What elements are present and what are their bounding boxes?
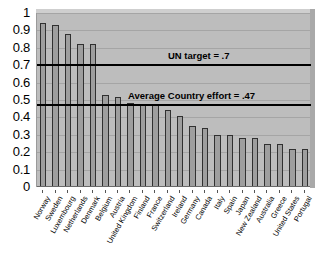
bar-body (227, 135, 233, 187)
x-axis-tick (229, 190, 230, 193)
bar-body (302, 149, 308, 187)
y-axis-tick-label: 0.4 (13, 110, 30, 123)
y-axis-tick-label: 0.5 (13, 93, 30, 106)
bar (264, 144, 270, 188)
x-axis-tick (304, 190, 305, 193)
x-axis-tick (254, 190, 255, 193)
x-axis-tick (192, 190, 193, 193)
bar-body (152, 105, 158, 187)
plot-area-side-face (310, 9, 315, 188)
x-axis-tick (179, 190, 180, 193)
x-axis-tick (55, 190, 56, 193)
bar (127, 103, 133, 187)
y-axis-tick-label: 0.3 (13, 128, 30, 141)
y-axis-tick-label: 0.9 (13, 23, 30, 36)
bar-body (264, 144, 270, 188)
bar (227, 135, 233, 187)
bar-body (252, 138, 258, 187)
bar (202, 128, 208, 187)
x-axis-tick (291, 190, 292, 193)
x-axis-tick (217, 190, 218, 193)
reference-line-label: Average Country effort = .47 (128, 90, 255, 101)
bar-body (102, 95, 108, 187)
bar (302, 149, 308, 187)
bar-body (165, 110, 171, 187)
bar-body (115, 97, 121, 187)
x-axis-tick (279, 190, 280, 193)
bar-body (177, 116, 183, 187)
x-axis-tick (204, 190, 205, 193)
x-axis-tick (167, 190, 168, 193)
x-axis-tick (80, 190, 81, 193)
bar (214, 135, 220, 187)
bar-body (202, 128, 208, 187)
bar-body (214, 135, 220, 187)
x-axis-tick (67, 190, 68, 193)
bar (152, 105, 158, 187)
bar (165, 110, 171, 187)
x-axis-tick (142, 190, 143, 193)
x-axis-tick (266, 190, 267, 193)
x-axis-tick (242, 190, 243, 193)
bar (115, 97, 121, 187)
bar (252, 138, 258, 187)
y-axis-tick-label: 0.8 (13, 41, 30, 54)
bar (277, 144, 283, 188)
reference-line (37, 104, 311, 106)
bar (289, 149, 295, 187)
bar (189, 126, 195, 187)
x-axis-tick (42, 190, 43, 193)
bar (140, 105, 146, 187)
x-axis-labels: NorwaySwedenLuxembourgNetherlandsDenmark… (0, 190, 317, 262)
x-axis-tick (105, 190, 106, 193)
bar (65, 34, 71, 187)
bar (102, 95, 108, 187)
x-axis-tick (92, 190, 93, 193)
bar-body (140, 105, 146, 187)
bar-body (277, 144, 283, 188)
y-axis-tick-label: 0.6 (13, 76, 30, 89)
bar (177, 116, 183, 187)
bar-body (127, 103, 133, 187)
reference-line (37, 64, 311, 66)
bar-body (239, 138, 245, 187)
y-axis-tick-label: 1 (23, 6, 30, 19)
x-axis-tick (117, 190, 118, 193)
bar-body (289, 149, 295, 187)
y-axis-tick-label: 0.7 (13, 58, 30, 71)
x-axis-tick (129, 190, 130, 193)
chart-container: 10.90.80.70.60.50.40.30.20.10 NorwaySwed… (0, 0, 317, 262)
bar-body (65, 34, 71, 187)
bar (239, 138, 245, 187)
y-axis-tick-label: 0.1 (13, 163, 30, 176)
y-axis-tick-label: 0.2 (13, 145, 30, 158)
reference-line-label: UN target = .7 (168, 50, 230, 61)
bar-body (189, 126, 195, 187)
x-axis-tick (154, 190, 155, 193)
x-axis-line (37, 186, 310, 187)
y-axis: 10.90.80.70.60.50.40.30.20.10 (0, 8, 33, 192)
